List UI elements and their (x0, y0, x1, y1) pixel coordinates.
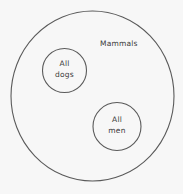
euler-diagram: Mammals All dogs All men (0, 0, 183, 194)
men-set: All men (93, 103, 141, 151)
mammals-set: Mammals (11, 11, 174, 181)
men-label-line2: men (108, 126, 125, 135)
mammals-circle (11, 11, 174, 181)
mammals-label: Mammals (100, 39, 138, 48)
dogs-label-line1: All (60, 59, 70, 68)
dogs-label-line2: dogs (55, 70, 74, 79)
men-label-line1: All (112, 115, 122, 124)
dogs-set: All dogs (43, 49, 87, 93)
